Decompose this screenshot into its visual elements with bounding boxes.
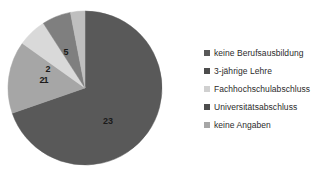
legend-item[interactable]: 3-jährige Lehre: [204, 62, 331, 80]
legend-item[interactable]: Fachhochschulabschluss: [204, 80, 331, 98]
chart-legend: keine Berufsausbildung3-jährige LehreFac…: [204, 44, 331, 134]
legend-item-label: keine Angaben: [214, 120, 271, 130]
legend-swatch-icon: [204, 50, 210, 56]
pie-slice-value-label: 5: [63, 47, 68, 57]
legend-swatch-icon: [204, 68, 210, 74]
legend-item[interactable]: keine Angaben: [204, 116, 331, 134]
legend-swatch-icon: [204, 104, 210, 110]
pie-slice-value-label: 23: [103, 116, 113, 126]
legend-item[interactable]: keine Berufsausbildung: [204, 44, 331, 62]
pie-slice-value-label: 2: [45, 64, 50, 74]
legend-item[interactable]: Universitätsabschluss: [204, 98, 331, 116]
pie-chart-figure: 235221 keine Berufsausbildung3-jährige L…: [0, 0, 331, 175]
pie-slice-group: [8, 11, 162, 165]
pie-plot-area: 235221: [0, 0, 170, 175]
legend-item-label: Fachhochschulabschluss: [214, 84, 310, 94]
pie-slice-value-label: 1: [43, 75, 48, 85]
legend-item-label: keine Berufsausbildung: [214, 48, 303, 58]
legend-item-label: Universitätsabschluss: [214, 102, 297, 112]
legend-item-label: 3-jährige Lehre: [214, 66, 272, 76]
pie-svg: 235221: [0, 0, 170, 175]
legend-swatch-icon: [204, 86, 210, 92]
legend-swatch-icon: [204, 122, 210, 128]
